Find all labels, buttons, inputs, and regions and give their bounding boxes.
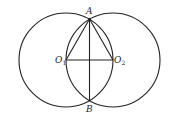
label-a: A bbox=[85, 6, 93, 16]
label-b: B bbox=[85, 104, 93, 114]
label-o2: O2 bbox=[114, 55, 125, 66]
label-o1: O1 bbox=[55, 55, 66, 66]
segment-a-o1 bbox=[66, 19, 90, 60]
segment-a-o2 bbox=[90, 19, 114, 60]
geometry-diagram: A B O1 O2 bbox=[0, 0, 172, 123]
point-a bbox=[88, 18, 91, 21]
